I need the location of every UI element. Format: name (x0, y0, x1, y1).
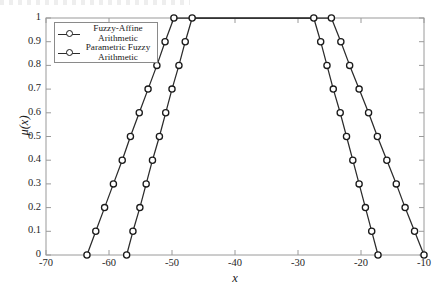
data-point-marker (365, 110, 371, 116)
data-point-marker (163, 110, 169, 116)
x-tick-label: -60 (89, 257, 129, 268)
x-tick-label: -20 (341, 257, 381, 268)
data-point-marker (356, 86, 362, 92)
data-point-marker (369, 228, 375, 234)
data-point-marker (402, 205, 408, 211)
x-tick-label: -30 (278, 257, 318, 268)
x-axis-label: x (46, 271, 424, 286)
y-tick-label: 0.1 (2, 224, 41, 235)
data-point-marker (162, 39, 168, 45)
data-point-marker (393, 181, 399, 187)
data-point-marker (337, 110, 343, 116)
legend-label-line1: Fuzzy-Affine (93, 23, 142, 33)
data-point-marker (93, 228, 99, 234)
data-point-marker (169, 86, 175, 92)
legend-entry-fuzzy-affine[interactable]: Fuzzy-Affine Arithmetic (55, 24, 159, 44)
data-point-marker (143, 181, 149, 187)
data-point-marker (101, 205, 107, 211)
data-point-marker (176, 62, 182, 68)
x-tick-label: -40 (215, 257, 255, 268)
data-point-marker (110, 181, 116, 187)
data-point-marker (154, 62, 160, 68)
data-point-marker (356, 181, 362, 187)
x-tick-label: -50 (152, 257, 192, 268)
legend-label-parametric-fuzzy: Parametric Fuzzy Arithmetic (79, 42, 157, 62)
data-point-marker (374, 133, 380, 139)
y-tick-label: 0.7 (2, 82, 41, 93)
data-point-marker (119, 157, 125, 163)
data-point-marker (347, 62, 353, 68)
data-point-marker (171, 15, 177, 21)
data-point-marker (149, 157, 155, 163)
data-point-marker (318, 39, 324, 45)
data-point-marker (182, 39, 188, 45)
data-point-marker (384, 157, 390, 163)
legend-entry-parametric-fuzzy[interactable]: Parametric Fuzzy Arithmetic (55, 43, 159, 63)
data-point-marker (137, 205, 143, 211)
data-point-marker (350, 157, 356, 163)
data-point-marker (324, 62, 330, 68)
x-tick-label: -10 (404, 257, 438, 268)
y-tick-label: 0.9 (2, 35, 41, 46)
data-point-marker (130, 228, 136, 234)
data-point-marker (127, 133, 133, 139)
y-tick-label: 0.2 (2, 201, 41, 212)
legend-label-line2: Arithmetic (98, 52, 138, 62)
x-tick-label: -70 (26, 257, 66, 268)
data-point-marker (136, 110, 142, 116)
chart-legend[interactable]: Fuzzy-Affine Arithmetic Parametric Fuzzy… (54, 22, 158, 63)
legend-marker-icon (58, 33, 80, 35)
data-point-marker (362, 205, 368, 211)
legend-label-line1: Parametric Fuzzy (86, 42, 151, 52)
figure-container: 00.10.20.30.40.50.60.70.80.91 -70-60-50-… (0, 0, 438, 289)
data-point-marker (411, 228, 417, 234)
y-tick-label: 0.3 (2, 177, 41, 188)
data-point-marker (311, 15, 317, 21)
data-point-marker (145, 86, 151, 92)
data-point-marker (189, 15, 195, 21)
series-line (127, 18, 378, 255)
y-tick-label: 0.8 (2, 58, 41, 69)
data-point-marker (343, 133, 349, 139)
legend-label-fuzzy-affine: Fuzzy-Affine Arithmetic (79, 23, 157, 43)
data-point-marker (338, 39, 344, 45)
data-point-marker (328, 15, 334, 21)
data-point-marker (330, 86, 336, 92)
y-axis-label: μ(x) (17, 96, 32, 156)
data-point-marker (156, 133, 162, 139)
legend-marker-icon (58, 52, 80, 54)
y-tick-label: 1 (2, 11, 41, 22)
